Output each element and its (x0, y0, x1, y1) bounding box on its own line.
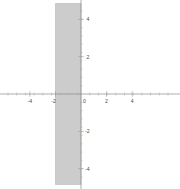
x-tick-label-pos4: 4 (131, 98, 134, 104)
coordinate-plane-plot: -4 -2 0 2 4 4 2 -2 -4 (0, 0, 180, 189)
y-tick-label-pos2: 2 (87, 54, 90, 60)
y-tick-label-pos4: 4 (87, 16, 90, 22)
x-tick-label-neg2: -2 (51, 98, 56, 104)
y-tick-label-neg4: -4 (85, 166, 90, 172)
x-tick-label-neg4: -4 (27, 98, 32, 104)
y-tick-label-neg2: -2 (85, 128, 90, 134)
plot-canvas: -4 -2 0 2 4 4 2 -2 -4 (0, 0, 180, 189)
x-tick-label-zero: 0 (83, 98, 86, 104)
x-tick-label-pos2: 2 (105, 98, 108, 104)
